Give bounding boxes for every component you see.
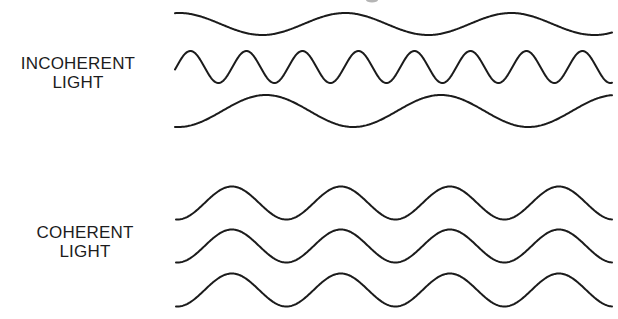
coherent-wave-1 — [176, 187, 612, 220]
incoherent-waves-group — [175, 13, 612, 127]
coherent-waves-group — [176, 187, 612, 307]
coherent-wave-2 — [176, 230, 612, 263]
waves-canvas — [0, 0, 618, 319]
incoherent-wave-3 — [175, 95, 612, 127]
cutoff-mark — [366, 0, 378, 3]
incoherent-wave-1 — [175, 13, 612, 35]
incoherent-wave-2 — [175, 51, 612, 83]
coherent-wave-3 — [176, 274, 612, 307]
